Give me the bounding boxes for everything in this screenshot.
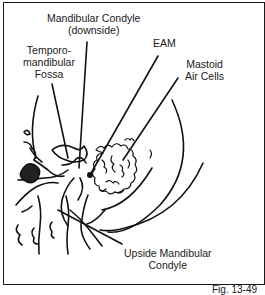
outline-arcs — [32, 96, 203, 232]
mastoid-air-cells — [93, 139, 152, 194]
label-line: Condyle — [124, 259, 212, 271]
label-line: (downside) — [47, 24, 140, 36]
label-eam: EAM — [153, 37, 176, 49]
mandible-structures — [16, 142, 105, 254]
label-line: Upside Mandibular — [124, 247, 212, 259]
label-line: Mastoid — [185, 58, 224, 70]
label-line: Temporo- — [23, 44, 75, 56]
label-mandibular-condyle-downside: Mandibular Condyle (downside) — [47, 12, 140, 36]
label-line: Mandibular Condyle — [47, 12, 140, 24]
leader-mastoid — [123, 78, 178, 160]
figure-caption: Fig. 13-49 — [212, 284, 257, 295]
label-line: Air Cells — [185, 70, 224, 82]
eam-dot — [88, 173, 92, 177]
label-temporomandibular-fossa: Temporo- mandibular Fossa — [23, 44, 75, 80]
label-line: mandibular — [23, 56, 75, 68]
label-upside-mandibular-condyle: Upside Mandibular Condyle — [124, 247, 212, 271]
label-line: Fossa — [23, 68, 75, 80]
leader-tm-fossa — [52, 84, 68, 158]
label-mastoid-air-cells: Mastoid Air Cells — [185, 58, 224, 82]
